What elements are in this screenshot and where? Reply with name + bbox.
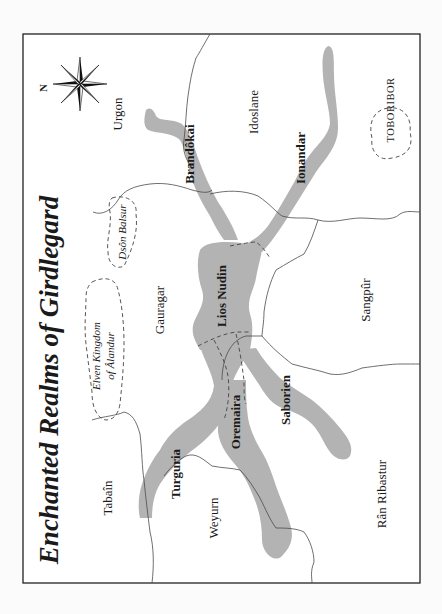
- girdlegard-map: N Enchanted Realms of Girdlegard Urgon I…: [0, 0, 442, 614]
- region-label-gauragar: Gauragar: [152, 285, 167, 334]
- water-label-oremaira: Oremaira: [228, 394, 243, 449]
- region-label-sangpur: Sangpûr: [358, 278, 373, 322]
- enclave-label-alandur-line2: of Âlandur: [104, 332, 116, 380]
- map-title: Enchanted Realms of Girdlegard: [34, 195, 64, 565]
- enclave-label-alandur-line1: Elven Kingdom: [90, 322, 102, 391]
- region-label-idoslane: Idoslane: [246, 90, 261, 134]
- water-label-brandokai: Brandôkai: [182, 124, 197, 184]
- water-label-lios-nudin: Lios Nudin: [214, 264, 229, 327]
- enclave-label-toboribor: TOBORIBOR: [385, 78, 396, 143]
- region-label-ran-ribastur: Rân Ribastur: [374, 459, 389, 528]
- region-label-weyurn: Weyurn: [206, 497, 221, 538]
- compass-rose-icon: [53, 57, 107, 111]
- enclave-label-dson-balsur: Dsôn Balsur: [116, 204, 128, 261]
- region-label-tabain: Tabaîn: [100, 480, 115, 516]
- water-label-ionandar: Ionandar: [293, 132, 308, 184]
- water-label-turguria: Turguria: [168, 448, 183, 499]
- compass-north-label: N: [37, 84, 49, 92]
- water-label-saborien: Saborien: [278, 374, 293, 425]
- region-label-urgon: Urgon: [110, 97, 125, 130]
